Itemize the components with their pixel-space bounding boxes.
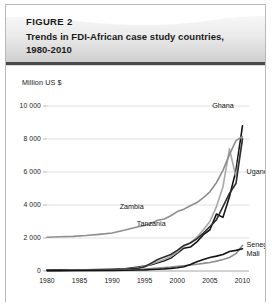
- figure-title-line2: 1980-2010: [26, 44, 251, 57]
- series-label-ghana: Ghana: [212, 101, 234, 110]
- series-label-senegal: Senegal: [246, 240, 265, 249]
- series-labels: GhanaUgandaZambiaTanzaniaSenegalMali: [120, 101, 265, 259]
- y-tick-10000: 10 000: [20, 102, 42, 109]
- series-label-uganda: Uganda: [246, 167, 265, 176]
- series-lines: [47, 126, 242, 271]
- series-line-ghana: [47, 126, 242, 270]
- x-tick-1985: 1985: [72, 277, 88, 284]
- line-chart: 02 0004 0006 0008 00010 000 198019851990…: [6, 67, 265, 302]
- y-tick-0: 0: [37, 267, 41, 274]
- y-tick-6000: 6 000: [23, 168, 41, 175]
- gridlines: [43, 106, 249, 271]
- series-label-tanzania: Tanzania: [137, 219, 166, 228]
- header-rule: [6, 62, 265, 65]
- y-tick-8000: 8 000: [23, 135, 41, 142]
- y-tick-4000: 4 000: [23, 201, 41, 208]
- series-label-mali: Mali: [246, 249, 260, 258]
- chart-area: Million US $ 02 0004 0006 0008 00010 000…: [6, 67, 265, 302]
- series-line-uganda: [47, 138, 242, 270]
- x-tick-1990: 1990: [104, 277, 120, 284]
- x-tick-1995: 1995: [137, 277, 153, 284]
- x-tick-2010: 2010: [235, 277, 251, 284]
- series-label-zambia: Zambia: [120, 202, 144, 211]
- header-text-block: FIGURE 2 Trends in FDI-African case stud…: [26, 15, 251, 56]
- y-tick-labels: 02 0004 0006 0008 00010 000: [20, 102, 42, 274]
- x-tick-2000: 2000: [170, 277, 186, 284]
- x-tick-2005: 2005: [202, 277, 218, 284]
- figure-title-line1: Trends in FDI-African case study countri…: [26, 31, 251, 44]
- figure-card: FIGURE 2 Trends in FDI-African case stud…: [5, 4, 266, 302]
- y-tick-2000: 2 000: [23, 234, 41, 241]
- figure-header: FIGURE 2 Trends in FDI-African case stud…: [6, 5, 265, 67]
- x-tick-labels: 1980198519901995200020052010: [39, 277, 250, 284]
- figure-label: FIGURE 2: [26, 15, 251, 28]
- x-tick-1980: 1980: [39, 277, 55, 284]
